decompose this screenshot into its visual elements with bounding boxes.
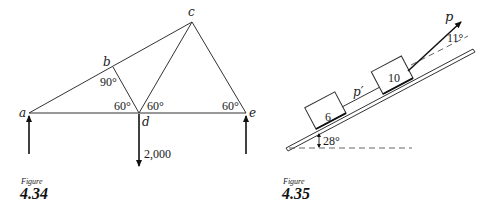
joint-label-b: b bbox=[103, 55, 111, 69]
block-6-label: 6 bbox=[325, 110, 331, 124]
pull-angle-label: 11° bbox=[447, 31, 464, 45]
joint-label-a: a bbox=[19, 106, 26, 120]
truss-figure: a b c d e 90° 60° 60° 60° 2,000 Figure 4… bbox=[19, 5, 256, 202]
joint-label-c: c bbox=[188, 5, 195, 19]
rope-force-label: p′ bbox=[353, 85, 364, 99]
incline-figure: 28° 6 p′ 10 p 11° Figure 4.35 bbox=[281, 9, 475, 202]
incline-angle-arrow-down-icon bbox=[317, 144, 321, 148]
load-value: 2,000 bbox=[144, 147, 171, 161]
figure-caption-number: 4.35 bbox=[281, 185, 310, 202]
joint-label-d: d bbox=[142, 115, 150, 129]
block-10-label: 10 bbox=[388, 71, 400, 85]
figure-caption-number: 4.34 bbox=[19, 185, 48, 202]
figures-canvas: a b c d e 90° 60° 60° 60° 2,000 Figure 4… bbox=[0, 0, 494, 213]
incline-angle-label: 28° bbox=[323, 134, 340, 148]
truss-members bbox=[29, 22, 246, 113]
angle-label-b: 90° bbox=[100, 75, 117, 89]
pull-force-label: p bbox=[445, 9, 454, 24]
angle-label-d-right: 60° bbox=[147, 99, 164, 113]
joint-label-e: e bbox=[249, 106, 256, 120]
angle-label-e: 60° bbox=[222, 99, 239, 113]
incline-surface bbox=[286, 49, 475, 151]
angle-label-d-left: 60° bbox=[114, 99, 131, 113]
